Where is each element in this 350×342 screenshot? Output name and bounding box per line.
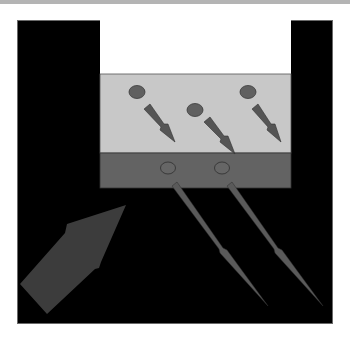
particle-icon bbox=[187, 104, 203, 117]
incident-arrow-icon bbox=[20, 205, 126, 314]
upper-region bbox=[100, 20, 291, 74]
diagram-canvas bbox=[0, 0, 350, 342]
particle-icon bbox=[215, 162, 230, 174]
long-arrow-down-right-icon bbox=[172, 182, 268, 306]
dark-layer bbox=[100, 153, 291, 188]
particle-icon bbox=[240, 86, 256, 99]
long-arrow-down-right-icon bbox=[227, 182, 323, 306]
particle-icon bbox=[161, 162, 176, 174]
particle-icon bbox=[129, 86, 145, 99]
